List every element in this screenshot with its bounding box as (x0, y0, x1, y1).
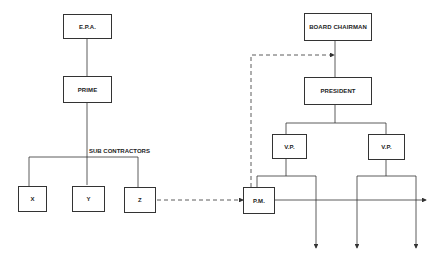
vp-label-1: V.P. (284, 144, 294, 150)
sub-y-label: Y (86, 196, 90, 202)
board-chairman-label: BOARD CHAIRMAN (309, 24, 367, 30)
prime-label: PRIME (78, 87, 98, 93)
president-box: PRESIDENT (304, 77, 372, 105)
epa-box: E.P.A. (63, 14, 112, 39)
president-label: PRESIDENT (320, 88, 355, 94)
vp-box-2: V.P. (368, 134, 405, 160)
sub-z-label: Z (138, 197, 142, 203)
prime-box: PRIME (63, 76, 112, 103)
sub-z-box: Z (124, 187, 156, 213)
vp-label-2: V.P. (381, 144, 391, 150)
pm-box: P.M. (243, 187, 275, 214)
sub-y-box: Y (72, 186, 105, 212)
sub-x-box: X (18, 186, 47, 212)
sub-contractors-label: SUB CONTRACTORS (89, 148, 150, 154)
board-chairman-box: BOARD CHAIRMAN (304, 13, 372, 41)
epa-label: E.P.A. (79, 24, 96, 30)
pm-label: P.M. (253, 198, 265, 204)
vp-box-1: V.P. (272, 134, 307, 159)
sub-x-label: X (30, 196, 34, 202)
